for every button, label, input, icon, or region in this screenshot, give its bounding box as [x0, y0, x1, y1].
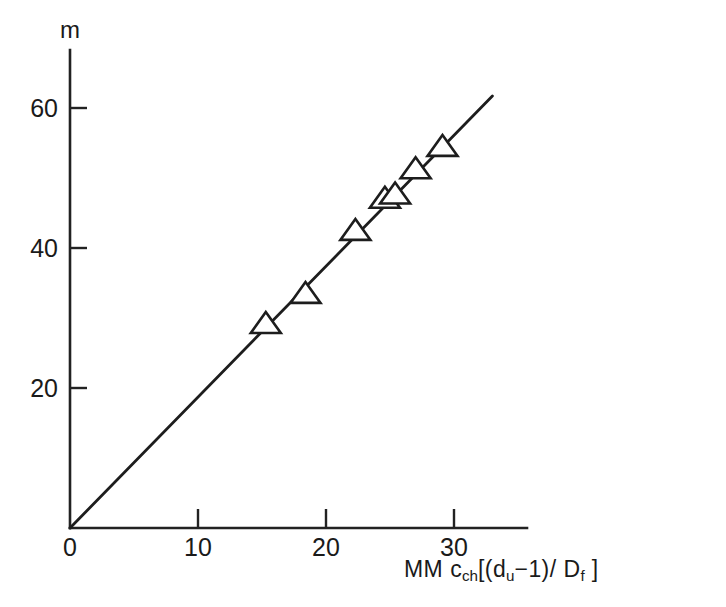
y-axis-ticks	[70, 108, 87, 388]
x-tick-label: 10	[184, 533, 212, 561]
y-axis-tick-labels: 204060	[30, 94, 58, 402]
data-point-triangle	[401, 157, 431, 178]
y-tick-label: 20	[30, 374, 58, 402]
data-point-triangle	[291, 282, 321, 303]
regression-line	[70, 96, 492, 528]
scatter-plot-canvas: 204060 0102030 m	[0, 0, 726, 607]
x-axis-ticks	[198, 509, 454, 528]
x-tick-label: 20	[312, 533, 340, 561]
y-tick-label: 60	[30, 94, 58, 122]
data-point-triangle	[340, 219, 370, 240]
chart-figure: 204060 0102030 m MMcch[(du−1)/Df]	[0, 0, 726, 607]
x-tick-label: 0	[63, 533, 77, 561]
y-axis-title: m	[60, 16, 80, 43]
y-tick-label: 40	[30, 234, 58, 262]
x-axis-title: MMcch[(du−1)/Df]	[404, 556, 598, 584]
